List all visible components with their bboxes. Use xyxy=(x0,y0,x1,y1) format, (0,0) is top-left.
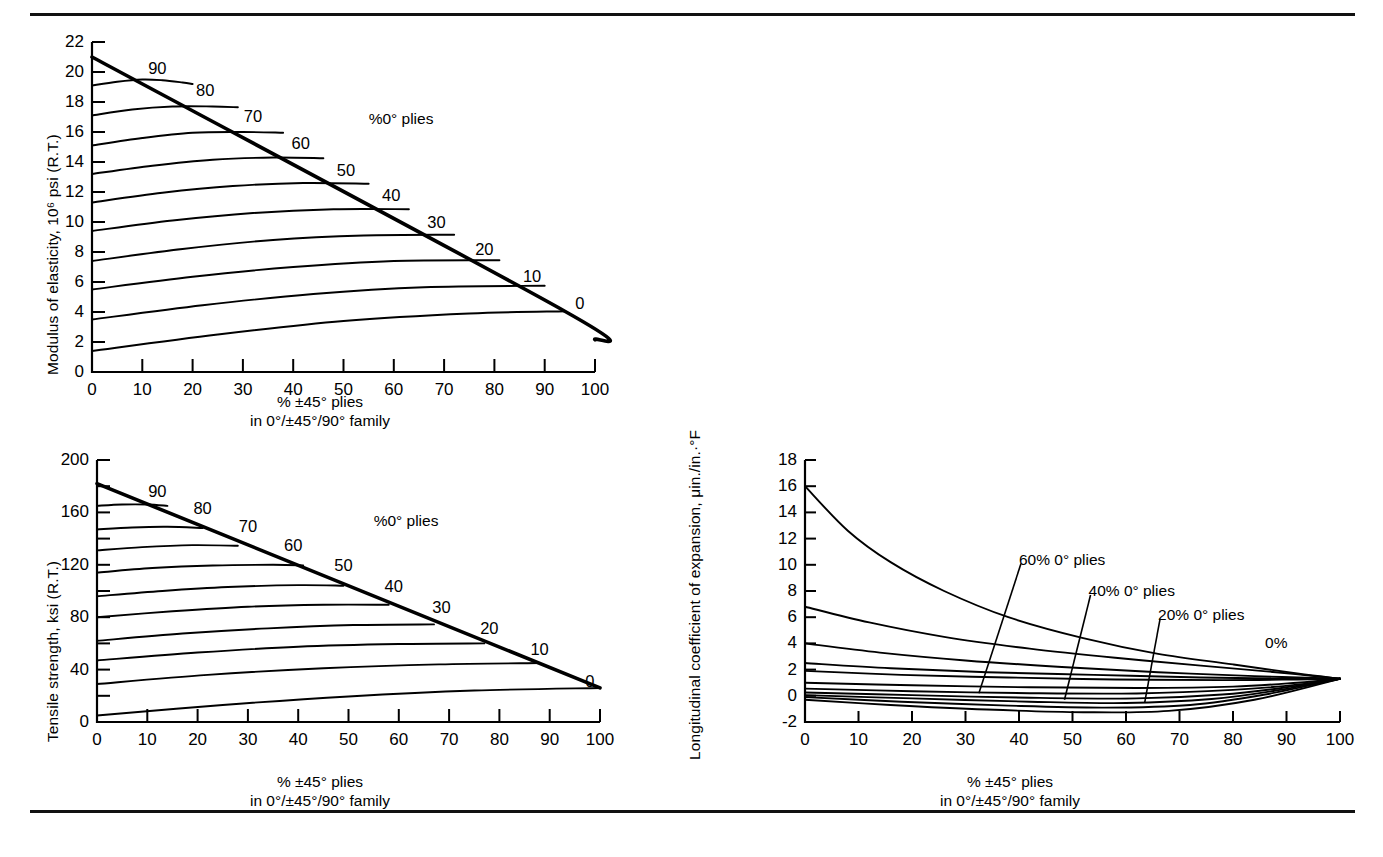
curve-label: 10 xyxy=(523,267,541,286)
curve-label: 70 xyxy=(244,106,262,125)
curve-label: 90 xyxy=(148,482,166,501)
tensile-x-axis-title: % ±45° plies in 0°/±45°/90° family xyxy=(170,772,470,810)
cte-x-axis-title: % ±45° plies in 0°/±45°/90° family xyxy=(860,772,1160,810)
tensile-x-axis-title-line1: % ±45° plies xyxy=(170,772,470,791)
curve-label: 60 xyxy=(284,536,302,555)
curve-label: 60 xyxy=(292,133,310,152)
curve-label: 80 xyxy=(196,81,214,100)
cte-x-axis-title-line2: in 0°/±45°/90° family xyxy=(860,791,1160,810)
cte-annotation-label: 60% 0° plies xyxy=(1019,551,1105,569)
curve-label: 10 xyxy=(530,639,548,658)
curve-label: 0 xyxy=(585,672,594,691)
cte-x-axis-title-line1: % ±45° plies xyxy=(860,772,1160,791)
tensile-plies-annotation: %0° plies xyxy=(374,512,439,530)
modulus-x-axis-title-line2: in 0°/±45°/90° family xyxy=(170,411,470,430)
curve-label: 70 xyxy=(239,516,257,535)
curve-label: 20 xyxy=(475,240,493,259)
curve-label: 90 xyxy=(148,58,166,77)
curve-label: 40 xyxy=(382,186,400,205)
modulus-plot-area xyxy=(0,20,640,440)
cte-annotation-label: 20% 0° plies xyxy=(1158,606,1244,624)
curve-label: 80 xyxy=(193,499,211,518)
curve-label: 0 xyxy=(575,294,584,313)
cte-annotation-label: 40% 0° plies xyxy=(1089,582,1175,600)
chart-longitudinal-cte: Longitudinal coefficient of expansion, μ… xyxy=(660,442,1360,842)
curve-label: 20 xyxy=(480,618,498,637)
modulus-plies-annotation: %0° plies xyxy=(369,110,434,128)
tensile-x-axis-title-line2: in 0°/±45°/90° family xyxy=(170,791,470,810)
curve-label: 50 xyxy=(334,555,352,574)
modulus-x-axis-title: % ±45° plies in 0°/±45°/90° family xyxy=(170,392,470,430)
cte-annotation-label: 0% xyxy=(1265,634,1287,652)
curve-label: 30 xyxy=(432,597,450,616)
top-divider-rule xyxy=(30,13,1355,16)
chart-tensile-strength: Tensile strength, ksi (R.T.) 04080120160… xyxy=(0,442,640,842)
curve-label: 40 xyxy=(385,576,403,595)
curve-label: 50 xyxy=(337,160,355,179)
modulus-x-axis-title-line1: % ±45° plies xyxy=(170,392,470,411)
chart-modulus-of-elasticity: Modulus of elasticity, 10⁶ psi (R.T.) 02… xyxy=(0,20,640,440)
curve-label: 30 xyxy=(427,213,445,232)
